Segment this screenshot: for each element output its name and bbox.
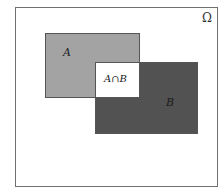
universe-label: Ω [202,11,212,25]
intersection-label: A∩B [104,73,127,84]
set-a-label: A [63,46,71,59]
set-b-label: B [166,96,174,109]
